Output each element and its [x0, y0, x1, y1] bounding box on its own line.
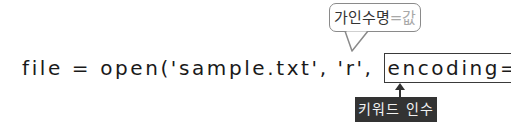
keyword-argument-label: 키워드 인수 — [355, 97, 437, 122]
